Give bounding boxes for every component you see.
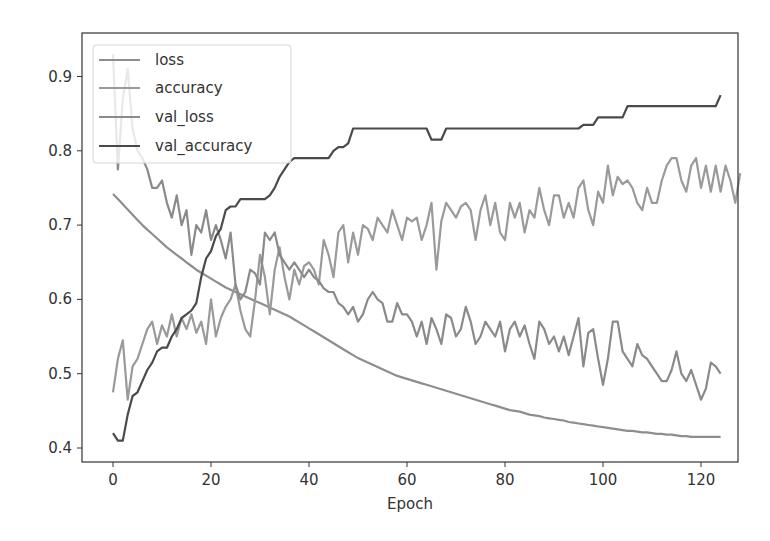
x-axis: 020406080100120: [108, 462, 715, 489]
y-tick-label: 0.6: [48, 290, 72, 308]
y-tick-label: 0.8: [48, 142, 72, 160]
y-tick-label: 0.4: [48, 439, 72, 457]
x-tick-label: 20: [201, 471, 220, 489]
y-tick-label: 0.7: [48, 216, 72, 234]
x-tick-label: 100: [589, 471, 618, 489]
legend: lossaccuracyval_lossval_accuracy: [93, 45, 291, 163]
legend-label-val-loss: val_loss: [155, 108, 214, 127]
y-tick-label: 0.9: [48, 68, 72, 86]
y-tick-label: 0.5: [48, 365, 72, 383]
series-accuracy-line: [113, 158, 740, 400]
legend-label-val-accuracy: val_accuracy: [155, 137, 253, 156]
x-tick-label: 60: [397, 471, 416, 489]
training-history-chart: 0.40.50.60.70.80.9 020406080100120 Epoch…: [0, 0, 770, 541]
x-tick-label: 40: [299, 471, 318, 489]
legend-label-loss: loss: [155, 51, 184, 69]
x-tick-label: 120: [687, 471, 716, 489]
y-axis: 0.40.50.60.70.80.9: [48, 68, 82, 458]
x-axis-label: Epoch: [387, 495, 433, 513]
x-tick-label: 0: [108, 471, 118, 489]
series-loss-line: [113, 194, 721, 437]
x-tick-label: 80: [495, 471, 514, 489]
legend-label-accuracy: accuracy: [155, 79, 223, 97]
